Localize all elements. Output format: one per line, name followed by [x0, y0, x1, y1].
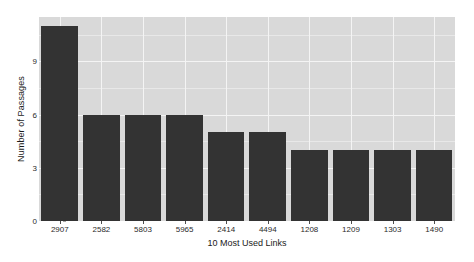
x-axis-title: 10 Most Used Links	[39, 238, 455, 248]
bar-1490	[416, 150, 453, 221]
bar-2582	[83, 115, 120, 221]
bar-4494	[249, 132, 286, 221]
x-tick-label-4494: 4494	[259, 225, 277, 234]
x-tick-mark	[101, 221, 102, 224]
x-tick-mark	[143, 221, 144, 224]
x-tick-label-2582: 2582	[92, 225, 110, 234]
x-tick-mark	[60, 221, 61, 224]
x-tick-mark	[185, 221, 186, 224]
x-tick-mark	[434, 221, 435, 224]
x-tick-label-1303: 1303	[384, 225, 402, 234]
y-tick-label: 0	[26, 217, 37, 226]
y-tick-label: 9	[26, 57, 37, 66]
x-tick-mark	[226, 221, 227, 224]
bar-2414	[208, 132, 245, 221]
x-tick-mark	[268, 221, 269, 224]
chart-screenshot: Number of Passages 0369 2907258258035965…	[0, 0, 474, 262]
x-tick-label-2414: 2414	[217, 225, 235, 234]
x-tick-label-1490: 1490	[425, 225, 443, 234]
plot-panel	[39, 17, 455, 221]
x-tick-mark	[309, 221, 310, 224]
bars-layer	[39, 17, 455, 221]
bar-1209	[333, 150, 370, 221]
bar-5803	[125, 115, 162, 221]
y-axis-tick-labels: 0369	[26, 17, 37, 221]
bar-1208	[291, 150, 328, 221]
x-tick-label-5803: 5803	[134, 225, 152, 234]
x-tick-label-1208: 1208	[300, 225, 318, 234]
bar-5965	[166, 115, 203, 221]
bar-2907	[41, 26, 78, 221]
y-tick-label: 3	[26, 163, 37, 172]
x-tick-mark	[351, 221, 352, 224]
y-axis-title-text: Number of Passages	[16, 76, 26, 162]
x-tick-mark	[393, 221, 394, 224]
x-axis-tick-labels: 2907258258035965241444941208120913031490	[39, 225, 455, 237]
y-tick-label: 6	[26, 110, 37, 119]
x-tick-label-2907: 2907	[51, 225, 69, 234]
x-tick-label-5965: 5965	[176, 225, 194, 234]
bar-1303	[374, 150, 411, 221]
x-tick-label-1209: 1209	[342, 225, 360, 234]
